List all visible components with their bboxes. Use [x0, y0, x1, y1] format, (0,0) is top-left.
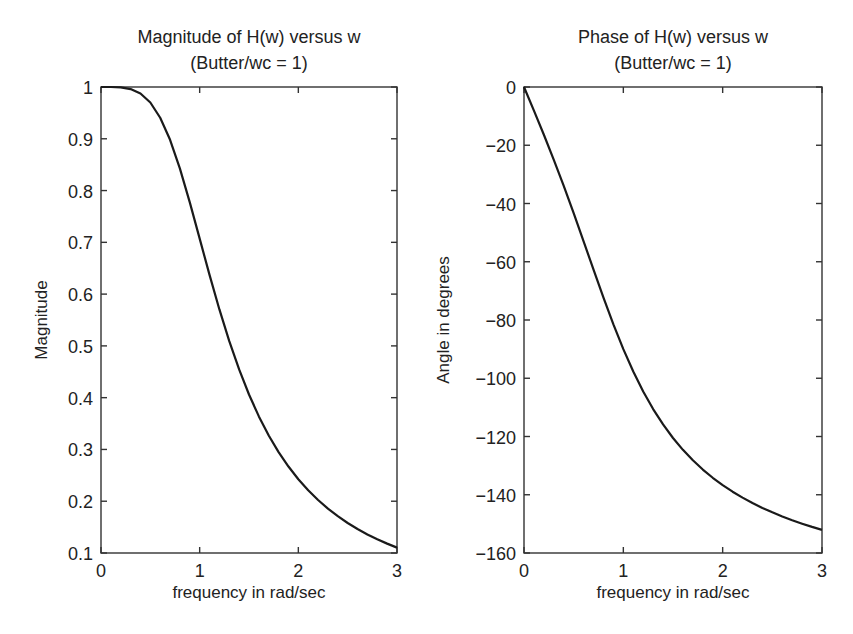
y-tick-label: 0.5: [68, 337, 93, 357]
magnitude-title: Magnitude of H(w) versus w: [137, 27, 361, 47]
y-tick-label: −160: [475, 544, 516, 564]
x-tick-label: 2: [293, 561, 303, 581]
magnitude-subtitle: (Butter/wc = 1): [190, 53, 308, 73]
y-tick-label: −60: [485, 253, 516, 273]
y-tick-label: −80: [485, 311, 516, 331]
y-tick-label: 0.1: [68, 544, 93, 564]
magnitude-axes-frame: [101, 87, 397, 553]
x-tick-label: 1: [195, 561, 205, 581]
y-tick-label: 1: [83, 78, 93, 98]
phase-ylabel: Angle in degrees: [434, 256, 453, 384]
y-tick-label: −100: [475, 369, 516, 389]
y-tick-label: −140: [475, 486, 516, 506]
y-tick-label: 0.7: [68, 233, 93, 253]
x-tick-label: 3: [392, 561, 402, 581]
y-tick-label: −20: [485, 136, 516, 156]
y-tick-label: 0.6: [68, 285, 93, 305]
x-tick-label: 0: [96, 561, 106, 581]
x-tick-label: 3: [817, 561, 827, 581]
y-tick-label: 0.3: [68, 440, 93, 460]
phase-axes-frame: [524, 87, 822, 553]
y-tick-label: 0.8: [68, 182, 93, 202]
phase-xlabel: frequency in rad/sec: [596, 583, 750, 602]
magnitude-plot: Magnitude of H(w) versus w (Butter/wc = …: [32, 27, 402, 602]
phase-subtitle: (Butter/wc = 1): [614, 53, 732, 73]
y-tick-label: 0.9: [68, 130, 93, 150]
y-tick-label: 0: [506, 78, 516, 98]
y-tick-label: 0.2: [68, 492, 93, 512]
phase-plot: Phase of H(w) versus w (Butter/wc = 1) 0…: [434, 27, 827, 602]
y-tick-label: −40: [485, 195, 516, 215]
phase-title: Phase of H(w) versus w: [578, 27, 769, 47]
phase-axes: 0123−160−140−120−100−80−60−40−200: [475, 78, 827, 581]
magnitude-xlabel: frequency in rad/sec: [172, 583, 326, 602]
magnitude-ylabel: Magnitude: [32, 280, 51, 359]
magnitude-axes: 01230.10.20.30.40.50.60.70.80.91: [68, 78, 402, 581]
x-tick-label: 0: [519, 561, 529, 581]
y-tick-label: 0.4: [68, 389, 93, 409]
y-tick-label: −120: [475, 428, 516, 448]
magnitude-curve: [101, 87, 397, 548]
figure: Magnitude of H(w) versus w (Butter/wc = …: [0, 0, 853, 634]
phase-curve: [524, 87, 822, 530]
x-tick-label: 1: [618, 561, 628, 581]
x-tick-label: 2: [718, 561, 728, 581]
